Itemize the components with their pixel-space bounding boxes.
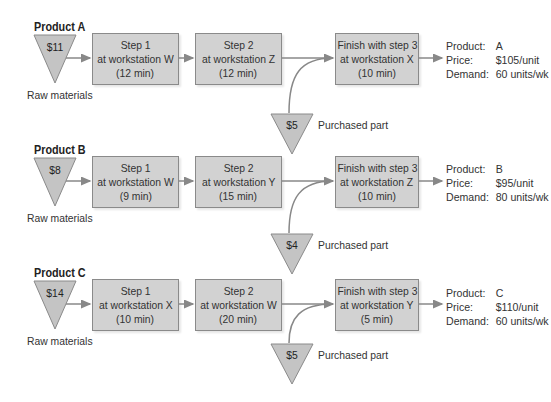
product-a-flow: Product A $11 Raw materials Step 1 at wo… xyxy=(0,20,551,150)
product-b-flow: Product B $8 Raw materials Step 1 at wor… xyxy=(0,143,551,273)
flow-arrows xyxy=(0,266,551,396)
flow-arrows xyxy=(0,20,551,150)
product-c-flow: Product C $14 Raw materials Step 1 at wo… xyxy=(0,266,551,396)
flow-arrows xyxy=(0,143,551,273)
